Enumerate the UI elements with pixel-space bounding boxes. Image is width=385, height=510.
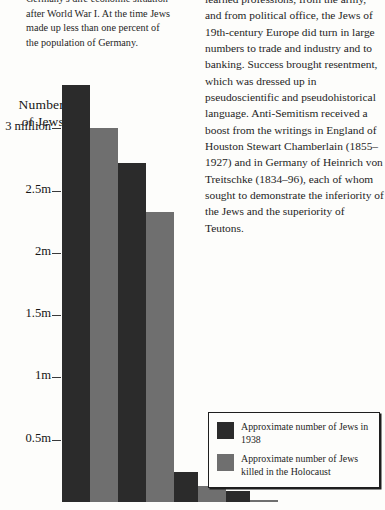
y-axis-tick-label: 3 million	[5, 119, 51, 133]
y-axis-tick-mark	[52, 377, 61, 378]
bar-jews-1938-0	[62, 85, 90, 502]
bar-jews-killed-0	[90, 128, 118, 502]
y-axis-tick-mark	[52, 253, 61, 254]
intro-line: Germany's dire economic situation	[26, 0, 194, 7]
y-axis-tick-label: 2m	[35, 244, 51, 258]
body-text-block: learned professions, from the army, and …	[205, 0, 385, 236]
y-axis-title-line: Number	[2, 96, 64, 113]
chart-legend: Approximate number of Jews in 1938 Appro…	[208, 412, 380, 488]
intro-paragraph: Germany's dire economic situation after …	[26, 0, 194, 50]
legend-item-label: Approximate number of Jews killed in the…	[241, 453, 373, 478]
bar-jews-1938-2	[170, 472, 198, 502]
legend-swatch-gray-icon	[217, 454, 234, 471]
y-axis-tick-mark	[52, 440, 61, 441]
y-axis-tick-label: 1m	[35, 368, 51, 382]
legend-item-label: Approximate number of Jews in 1938	[241, 421, 373, 446]
page-root: Germany's dire economic situation after …	[0, 0, 385, 510]
left-column: Germany's dire economic situation after …	[0, 0, 196, 510]
right-column: learned professions, from the army, and …	[205, 0, 385, 510]
y-axis-tick-label: 0.5m	[25, 431, 51, 445]
legend-swatch-dark-icon	[217, 422, 234, 439]
y-axis-tick-label: 2.5m	[25, 182, 51, 196]
y-axis-tick-label: 1.5m	[25, 306, 51, 320]
intro-line: after World War I. At the time Jews	[26, 7, 194, 22]
intro-line: made up less than one percent of	[26, 21, 194, 36]
legend-item: Approximate number of Jews killed in the…	[217, 453, 373, 478]
legend-item: Approximate number of Jews in 1938	[217, 421, 373, 446]
y-axis-tick-mark	[52, 128, 61, 129]
body-paragraph: learned professions, from the army, and …	[205, 0, 385, 236]
y-axis-tick-mark	[52, 315, 61, 316]
y-axis-tick-mark	[52, 191, 61, 192]
bar-jews-1938-1	[118, 163, 146, 502]
intro-line: the population of Germany.	[26, 36, 194, 51]
bar-jews-killed-1	[146, 212, 174, 502]
